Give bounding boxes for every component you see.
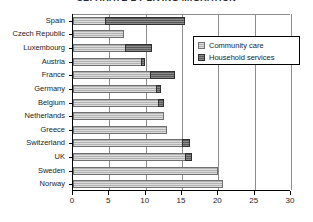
bar-segment-household-services[interactable] bbox=[182, 139, 189, 147]
bar-segment-community-care[interactable] bbox=[73, 58, 142, 66]
x-axis-label: 15 bbox=[171, 196, 191, 206]
x-axis-tick bbox=[254, 191, 255, 195]
legend-item-community-care: Community care bbox=[198, 39, 299, 51]
x-axis-tick bbox=[290, 191, 291, 195]
chart-legend: Community care Household services bbox=[193, 36, 300, 65]
y-axis-label: Netherlands bbox=[25, 112, 65, 120]
bar-segment-household-services[interactable] bbox=[105, 17, 185, 25]
stacked-bar[interactable] bbox=[73, 180, 223, 188]
bar-row[interactable] bbox=[73, 180, 290, 188]
x-axis-tick bbox=[217, 191, 218, 195]
x-axis-label: 20 bbox=[207, 196, 227, 206]
y-axis-label: Spain bbox=[46, 17, 65, 25]
x-axis-label: 25 bbox=[244, 196, 264, 206]
legend-label-household-services: Household services bbox=[209, 53, 274, 62]
bar-row[interactable] bbox=[73, 139, 290, 147]
bar-segment-community-care[interactable] bbox=[73, 71, 151, 79]
bar-row[interactable] bbox=[73, 99, 290, 107]
stacked-bar[interactable] bbox=[73, 58, 145, 66]
x-axis-tick bbox=[108, 191, 109, 195]
legend-label-community-care: Community care bbox=[209, 41, 264, 50]
x-axis-label: 0 bbox=[62, 196, 82, 206]
stacked-bar[interactable] bbox=[73, 99, 164, 107]
bar-segment-community-care[interactable] bbox=[73, 30, 124, 38]
bar-segment-community-care[interactable] bbox=[73, 44, 126, 52]
stacked-bar[interactable] bbox=[73, 112, 164, 120]
legend-item-household-services: Household services bbox=[198, 51, 299, 63]
y-axis-label: Belgium bbox=[38, 99, 65, 107]
y-axis-label: Norway bbox=[40, 180, 65, 188]
y-axis-label: Luxembourg bbox=[23, 44, 65, 52]
y-axis-label: Austria bbox=[42, 58, 65, 66]
chart-container: SEPARATE BY LIVING MIGRATION SpainCzech … bbox=[0, 0, 313, 222]
bar-segment-community-care[interactable] bbox=[73, 139, 183, 147]
bar-segment-household-services[interactable] bbox=[158, 99, 164, 107]
bar-segment-household-services[interactable] bbox=[141, 58, 145, 66]
y-axis-labels: SpainCzech RepublicLuxembourgAustriaFran… bbox=[0, 14, 69, 191]
bar-segment-community-care[interactable] bbox=[73, 17, 106, 25]
y-axis-label: Czech Republic bbox=[12, 30, 65, 38]
stacked-bar[interactable] bbox=[73, 85, 161, 93]
stacked-bar[interactable] bbox=[73, 44, 152, 52]
legend-swatch-community-care-icon bbox=[198, 42, 205, 49]
bar-segment-community-care[interactable] bbox=[73, 85, 157, 93]
stacked-bar[interactable] bbox=[73, 17, 185, 25]
x-axis-tick bbox=[72, 191, 73, 195]
bar-segment-community-care[interactable] bbox=[73, 99, 159, 107]
x-axis-label: 10 bbox=[135, 196, 155, 206]
y-axis-label: Sweden bbox=[38, 167, 65, 175]
stacked-bar[interactable] bbox=[73, 71, 175, 79]
bar-segment-household-services[interactable] bbox=[185, 153, 192, 161]
stacked-bar[interactable] bbox=[73, 153, 192, 161]
bar-segment-community-care[interactable] bbox=[73, 126, 167, 134]
stacked-bar[interactable] bbox=[73, 167, 218, 175]
bar-segment-household-services[interactable] bbox=[125, 44, 152, 52]
stacked-bar[interactable] bbox=[73, 30, 124, 38]
y-axis-label: France bbox=[42, 71, 65, 79]
bar-segment-household-services[interactable] bbox=[150, 71, 175, 79]
y-axis-label: UK bbox=[55, 153, 65, 161]
x-axis-label: 5 bbox=[98, 196, 118, 206]
bar-segment-community-care[interactable] bbox=[73, 112, 164, 120]
bar-segment-community-care[interactable] bbox=[73, 153, 186, 161]
legend-swatch-household-services-icon bbox=[198, 54, 205, 61]
x-axis-label: 30 bbox=[280, 196, 300, 206]
bar-row[interactable] bbox=[73, 126, 290, 134]
chart-title: SEPARATE BY LIVING MIGRATION bbox=[0, 0, 313, 2]
bar-segment-household-services[interactable] bbox=[156, 85, 162, 93]
y-axis-label: Greece bbox=[40, 126, 65, 134]
bar-row[interactable] bbox=[73, 153, 290, 161]
bar-row[interactable] bbox=[73, 85, 290, 93]
bar-row[interactable] bbox=[73, 112, 290, 120]
bar-row[interactable] bbox=[73, 71, 290, 79]
x-axis-tick bbox=[145, 191, 146, 195]
x-axis-labels: 051015202530 bbox=[0, 196, 313, 208]
bar-row[interactable] bbox=[73, 167, 290, 175]
y-axis-label: Germany bbox=[34, 85, 65, 93]
y-axis-label: Switzerland bbox=[26, 139, 65, 147]
bar-segment-community-care[interactable] bbox=[73, 180, 223, 188]
x-axis-tick bbox=[181, 191, 182, 195]
stacked-bar[interactable] bbox=[73, 126, 167, 134]
bar-row[interactable] bbox=[73, 17, 290, 25]
stacked-bar[interactable] bbox=[73, 139, 190, 147]
bar-segment-community-care[interactable] bbox=[73, 167, 218, 175]
